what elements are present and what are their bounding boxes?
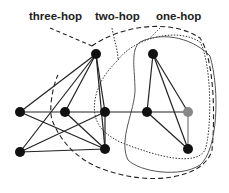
- one-hop-label: one-hop: [156, 10, 201, 22]
- multi-hop-neighborhood-diagram: three-hop two-hop one-hop: [0, 0, 229, 193]
- node: [142, 107, 152, 117]
- one-hop-boundary: [125, 37, 216, 173]
- two-hop-label: two-hop: [95, 10, 140, 22]
- node: [183, 144, 193, 154]
- node: [15, 107, 25, 117]
- three-hop-leader-line: [50, 28, 92, 46]
- node: [100, 144, 110, 154]
- source-node: [183, 107, 193, 117]
- three-hop-label: three-hop: [29, 10, 82, 22]
- edges: [20, 54, 188, 152]
- node: [15, 147, 25, 157]
- three-hop-boundary: [51, 26, 214, 178]
- node: [100, 107, 110, 117]
- node: [148, 49, 158, 59]
- node: [60, 107, 70, 117]
- node: [91, 49, 101, 59]
